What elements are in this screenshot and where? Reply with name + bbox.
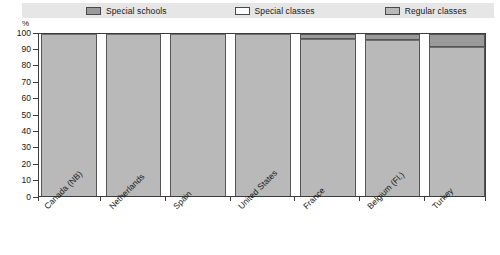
legend-swatch-special-classes bbox=[235, 7, 250, 15]
y-axis-tick-70: 70 bbox=[0, 77, 38, 88]
bar-segment-regular-classes bbox=[106, 34, 162, 196]
x-axis-labels: Canada (NB)NetherlandsSpainUnited States… bbox=[0, 200, 500, 255]
legend-label-special-schools: Special schools bbox=[106, 6, 167, 16]
bar-segment-regular-classes bbox=[41, 34, 97, 196]
legend-item-special-classes: Special classes bbox=[235, 6, 315, 16]
legend-label-regular-classes: Regular classes bbox=[405, 6, 467, 16]
y-axis-tick-50: 50 bbox=[0, 110, 38, 121]
legend-swatch-regular-classes bbox=[385, 7, 400, 15]
y-axis-tick-20: 20 bbox=[0, 159, 38, 170]
bar-group bbox=[429, 34, 485, 196]
bar-segment-regular-classes bbox=[429, 47, 485, 196]
bar-group bbox=[365, 34, 421, 196]
plot-area bbox=[38, 33, 486, 197]
legend-label-special-classes: Special classes bbox=[255, 6, 315, 16]
bar-group bbox=[300, 34, 356, 196]
bar-group bbox=[235, 34, 291, 196]
y-axis-tick-40: 40 bbox=[0, 126, 38, 137]
bar-group bbox=[41, 34, 97, 196]
legend-item-regular-classes: Regular classes bbox=[385, 6, 467, 16]
y-axis-tick-10: 10 bbox=[0, 175, 38, 186]
y-axis-tick-30: 30 bbox=[0, 142, 38, 153]
bar-group bbox=[106, 34, 162, 196]
bar-segment-regular-classes bbox=[300, 39, 356, 196]
bar-segment-special-schools bbox=[429, 34, 485, 47]
bar-segment-regular-classes bbox=[170, 34, 226, 196]
bar-group bbox=[170, 34, 226, 196]
y-axis-tick-60: 60 bbox=[0, 93, 38, 104]
y-axis-tick-90: 90 bbox=[0, 44, 38, 55]
bar-segment-regular-classes bbox=[365, 40, 421, 196]
y-axis: 1009080706050403020100 bbox=[0, 27, 38, 203]
legend-swatch-special-schools bbox=[86, 7, 101, 15]
y-axis-tick-100: 100 bbox=[0, 28, 38, 39]
bar-segment-regular-classes bbox=[235, 34, 291, 196]
chart-legend: Special schools Special classes Regular … bbox=[22, 3, 494, 18]
y-axis-tick-80: 80 bbox=[0, 60, 38, 71]
bar-series-container bbox=[39, 34, 485, 196]
legend-item-special-schools: Special schools bbox=[86, 6, 167, 16]
